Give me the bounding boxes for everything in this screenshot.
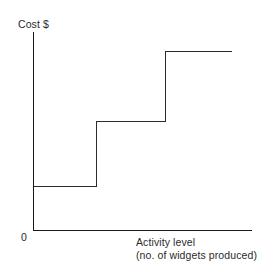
step-cost-series-line xyxy=(34,52,233,187)
step-cost-chart: Cost $ 0 Activity level (no. of widgets … xyxy=(0,0,267,274)
origin-label: 0 xyxy=(21,231,27,244)
x-axis-label-line-2: (no. of widgets produced) xyxy=(136,249,257,262)
x-axis-label: Activity level (no. of widgets produced) xyxy=(136,236,257,262)
y-axis-label: Cost $ xyxy=(18,18,49,31)
x-axis-label-line-1: Activity level xyxy=(136,236,257,249)
chart-canvas xyxy=(0,0,267,274)
